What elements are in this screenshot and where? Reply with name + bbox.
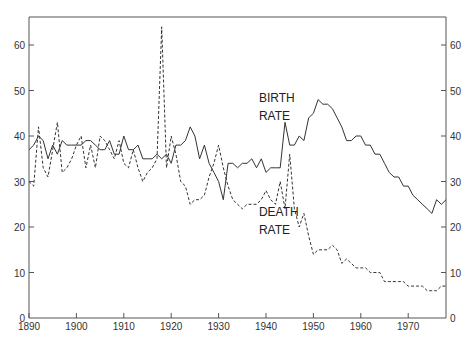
x-tick-label: 1940 — [255, 321, 278, 332]
x-axis: 189019001910192019301940195019601970 — [18, 313, 420, 332]
y-tick-label-right: 0 — [450, 313, 456, 324]
y-tick-label-left: 30 — [14, 177, 26, 188]
y-tick-label-right: 50 — [450, 86, 462, 97]
y-tick-label-left: 10 — [14, 268, 26, 279]
y-tick-label-left: 50 — [14, 86, 26, 97]
y-tick-label-left: 20 — [14, 222, 26, 233]
y-tick-label-right: 60 — [450, 40, 462, 51]
annotation-label: BIRTH — [259, 91, 295, 105]
y-tick-label-left: 0 — [19, 313, 25, 324]
birth-death-rate-chart: 189019001910192019301940195019601970 010… — [0, 0, 471, 345]
y-tick-label-right: 20 — [450, 222, 462, 233]
x-tick-label: 1900 — [65, 321, 88, 332]
death-rate-line — [29, 27, 446, 291]
x-tick-label: 1910 — [113, 321, 136, 332]
birth-rate-line — [29, 100, 446, 214]
x-tick-label: 1950 — [302, 321, 325, 332]
y-axis-left: 0102030405060 — [14, 40, 34, 324]
x-tick-label: 1920 — [160, 321, 183, 332]
annotation-label: RATE — [259, 223, 290, 237]
line-annotations: BIRTHRATEDEATHRATE — [259, 91, 299, 237]
annotation-label: RATE — [259, 109, 290, 123]
series-lines — [29, 27, 446, 291]
y-tick-label-left: 60 — [14, 40, 26, 51]
y-tick-label-right: 40 — [450, 131, 462, 142]
x-tick-label: 1970 — [397, 321, 420, 332]
y-tick-label-left: 40 — [14, 131, 26, 142]
y-axis-right: 0102030405060 — [441, 40, 462, 324]
x-tick-label: 1960 — [350, 321, 373, 332]
x-tick-label: 1930 — [207, 321, 230, 332]
annotation-label: DEATH — [259, 205, 299, 219]
y-tick-label-right: 10 — [450, 268, 462, 279]
y-tick-label-right: 30 — [450, 177, 462, 188]
